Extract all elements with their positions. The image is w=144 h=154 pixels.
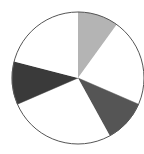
pie-chart-figure (0, 0, 144, 154)
pie-slice-group (12, 12, 144, 144)
pie-chart-svg (0, 0, 144, 154)
